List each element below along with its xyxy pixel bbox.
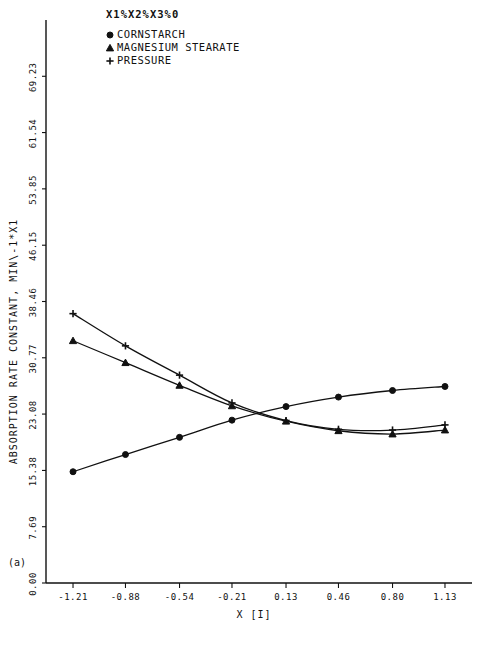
series-curve — [73, 314, 445, 431]
x-axis-title: X [I] — [236, 609, 271, 620]
x-tick-label: 0.46 — [327, 592, 351, 602]
panel-label: (a) — [8, 557, 26, 568]
y-axis-title: ABSORPTION RATE CONSTANT, MIN\-1*X1 — [8, 219, 19, 465]
y-tick-label: 53.85 — [28, 175, 38, 205]
figure-panel: 0.007.6915.3823.0830.7738.4646.1553.8561… — [0, 0, 489, 653]
legend-label: PRESSURE — [117, 54, 172, 66]
y-tick-label: 15.38 — [28, 457, 38, 487]
y-tick-label: 46.15 — [28, 231, 38, 261]
y-tick-label: 69.23 — [28, 62, 38, 92]
y-tick-label: 38.46 — [28, 288, 38, 318]
marker-circle — [283, 404, 289, 410]
y-tick-label: 7.69 — [28, 516, 38, 540]
y-tick-label: 61.54 — [28, 119, 38, 149]
marker-circle — [122, 452, 128, 458]
marker-triangle — [69, 337, 76, 343]
x-tick-label: -0.21 — [217, 592, 247, 602]
y-tick-label: 23.08 — [28, 400, 38, 430]
marker-circle — [107, 32, 113, 38]
legend-label: CORNSTARCH — [117, 28, 185, 40]
marker-triangle — [106, 44, 113, 50]
legend-label: MAGNESIUM STEARATE — [117, 41, 240, 53]
x-tick-label: 0.13 — [274, 592, 298, 602]
x-tick-label: -0.54 — [165, 592, 195, 602]
x-tick-label: -1.21 — [58, 592, 88, 602]
marker-circle — [390, 388, 396, 394]
legend-item-magnesium-stearate — [106, 44, 113, 50]
series-pressure — [69, 310, 448, 434]
marker-circle — [442, 383, 448, 389]
x-tick-label: 1.13 — [433, 592, 457, 602]
legend-item-pressure — [106, 57, 113, 64]
series-curve — [73, 386, 445, 471]
series-cornstarch — [70, 383, 448, 474]
x-tick-label: 0.80 — [381, 592, 405, 602]
absorption-rate-chart: 0.007.6915.3823.0830.7738.4646.1553.8561… — [0, 0, 489, 653]
marker-circle — [335, 394, 341, 400]
marker-circle — [177, 434, 183, 440]
legend-title: X1%X2%X3%0 — [106, 8, 179, 20]
legend-item-cornstarch — [107, 32, 113, 38]
marker-circle — [70, 469, 76, 475]
series-curve — [73, 341, 445, 434]
series-magnesium-stearate — [69, 337, 448, 437]
x-tick-label: -0.88 — [111, 592, 141, 602]
marker-circle — [229, 417, 235, 423]
y-tick-label: 0.00 — [28, 572, 38, 596]
y-tick-label: 30.77 — [28, 344, 38, 374]
